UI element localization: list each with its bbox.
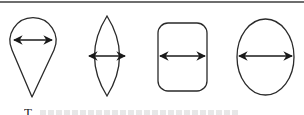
ellipse-shape [237, 19, 294, 95]
shapes-diagram [0, 0, 304, 115]
rounded-rectangle-shape [158, 23, 207, 91]
lens-shape [89, 16, 125, 96]
teardrop-shape [10, 18, 56, 97]
caption-truncated-line [40, 110, 240, 115]
